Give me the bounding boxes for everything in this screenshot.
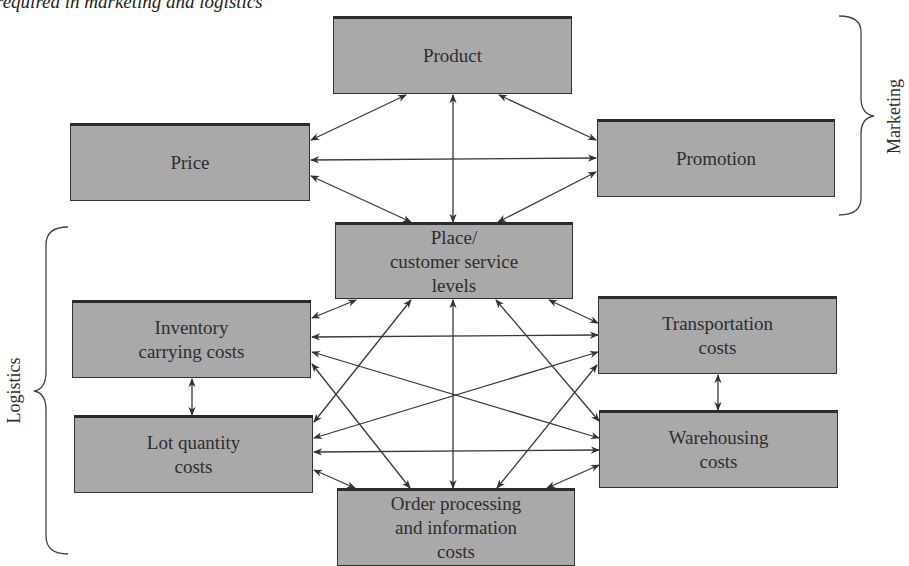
box-order-label: Order processing and information costs bbox=[391, 492, 521, 564]
logistics-label: Logistics bbox=[4, 351, 25, 431]
arrow-place-lot bbox=[314, 300, 411, 422]
box-lot: Lot quantity costs bbox=[74, 415, 313, 493]
box-transportation: Transportation costs bbox=[598, 296, 837, 374]
arrow-place-inventory bbox=[312, 300, 356, 318]
logistics-brace bbox=[34, 227, 68, 554]
box-inventory-label: Inventory carrying costs bbox=[138, 316, 244, 364]
box-inventory: Inventory carrying costs bbox=[72, 300, 311, 378]
box-promotion-label: Promotion bbox=[676, 147, 756, 171]
box-order: Order processing and information costs bbox=[337, 488, 575, 566]
box-place: Place/ customer service levels bbox=[335, 222, 573, 299]
box-price-label: Price bbox=[170, 151, 209, 175]
box-promotion: Promotion bbox=[597, 119, 835, 197]
box-warehousing: Warehousing costs bbox=[599, 410, 838, 488]
marketing-label: Marketing bbox=[884, 77, 905, 157]
box-product-label: Product bbox=[423, 44, 482, 68]
arrow-inventory-order bbox=[312, 364, 410, 488]
arrow-place-warehousing bbox=[496, 300, 599, 421]
arrow-inventory-transportation bbox=[312, 335, 598, 337]
box-lot-label: Lot quantity costs bbox=[147, 431, 240, 479]
arrow-product-price bbox=[311, 95, 406, 140]
marketing-brace bbox=[839, 16, 874, 215]
box-product: Product bbox=[333, 16, 572, 94]
arrow-warehousing-order bbox=[547, 465, 599, 488]
arrow-transportation-order bbox=[497, 365, 597, 488]
arrow-product-promotion bbox=[499, 95, 596, 140]
arrow-lot-order bbox=[314, 470, 355, 488]
arrow-price-place bbox=[311, 176, 411, 222]
box-warehousing-label: Warehousing costs bbox=[669, 426, 769, 474]
box-transportation-label: Transportation costs bbox=[662, 312, 773, 360]
box-price: Price bbox=[70, 123, 310, 201]
arrow-lot-warehousing bbox=[314, 450, 599, 452]
arrow-promotion-place bbox=[498, 172, 596, 222]
box-place-label: Place/ customer service levels bbox=[390, 226, 518, 298]
arrow-place-transportation bbox=[549, 300, 598, 323]
